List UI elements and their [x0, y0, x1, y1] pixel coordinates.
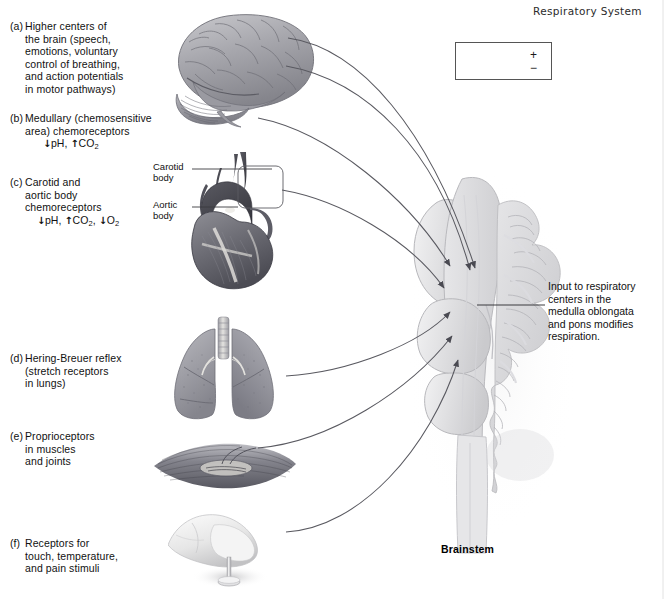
input-tag-b: (b)	[10, 112, 25, 125]
figure-title: Respiratory System	[533, 5, 642, 17]
co2-label-b: CO	[78, 137, 94, 149]
input-d-line2: (stretch receptors	[25, 365, 109, 377]
output-line3: medulla oblongata	[548, 305, 634, 317]
input-a-line2: the brain (speech,	[25, 33, 111, 45]
input-e-line3: and joints	[25, 455, 71, 467]
output-line1: Input to respiratory	[548, 280, 636, 292]
input-label-e: (e) Proprioceptors in muscles and joints	[10, 430, 160, 468]
carotid-body-callout: Carotid body	[153, 161, 184, 184]
input-a-line6: in motor pathways)	[25, 83, 116, 95]
aortic-body-callout: Aortic body	[153, 199, 177, 222]
chem-comma-c: ,	[93, 214, 96, 226]
ph-down-arrow-c: ↓	[37, 215, 45, 226]
input-d-line1: Hering-Breuer reflex	[25, 352, 122, 364]
output-line5: respiration.	[548, 330, 600, 342]
hand-pin-illustration	[168, 505, 308, 595]
input-a-line5: and action potentials	[25, 70, 123, 82]
lungs-illustration	[158, 315, 290, 425]
legend-minus-symbol: −	[530, 61, 537, 75]
input-d-line3: in lungs)	[25, 377, 66, 389]
o2-subscript-c: 2	[115, 219, 119, 228]
input-c-line3: chemoreceptors	[25, 201, 102, 213]
input-label-c: (c) Carotid and aortic body chemorecepto…	[10, 176, 160, 230]
input-label-b: (b) Medullary (chemosensitive area) chem…	[10, 112, 175, 154]
input-label-a: (a) Higher centers of the brain (speech,…	[10, 20, 160, 96]
output-line4: and pons modifies	[548, 318, 633, 330]
input-label-d: (d) Hering-Breuer reflex (stretch recept…	[10, 352, 160, 390]
o2-label-c: O	[107, 214, 115, 226]
carotid-body-line2: body	[153, 172, 174, 183]
input-a-line4: control of breathing,	[25, 58, 120, 70]
brainstem-illustration	[400, 155, 590, 555]
input-tag-e: (e)	[10, 430, 25, 443]
input-a-line3: emotions, voluntary	[25, 45, 118, 57]
heart-illustration	[178, 152, 303, 290]
aortic-body-line2: body	[153, 210, 174, 221]
carotid-body-line1: Carotid	[153, 161, 184, 172]
input-b-line1: Medullary (chemosensitive	[25, 112, 152, 124]
output-line2: centers in the	[548, 293, 611, 305]
input-label-f: (f) Receptors for touch, temperature, an…	[10, 537, 160, 575]
input-f-line3: and pain stimuli	[25, 562, 100, 574]
figure-canvas: Respiratory System + − (a) Higher center…	[0, 0, 669, 599]
input-c-line2: aortic body	[25, 189, 77, 201]
co2-label-c: CO	[72, 214, 88, 226]
brain-illustration	[165, 8, 330, 128]
ph-label-c: pH,	[45, 214, 62, 226]
input-tag-c: (c)	[10, 176, 25, 189]
input-e-line1: Proprioceptors	[25, 430, 95, 442]
input-f-line2: touch, temperature,	[25, 550, 118, 562]
input-f-line1: Receptors for	[25, 537, 89, 549]
brainstem-label: Brainstem	[441, 543, 494, 555]
input-c-line1: Carotid and	[25, 176, 80, 188]
input-tag-f: (f)	[10, 537, 25, 550]
ph-down-arrow-b: ↓	[43, 138, 51, 149]
input-tag-a: (a)	[10, 20, 25, 33]
input-a-line1: Higher centers of	[25, 20, 107, 32]
aortic-body-line1: Aortic	[153, 199, 177, 210]
co2-subscript-b: 2	[94, 142, 98, 151]
input-e-line2: in muscles	[25, 443, 76, 455]
arrow-legend	[455, 42, 552, 80]
ph-label-b: pH,	[51, 137, 68, 149]
legend-plus-symbol: +	[530, 48, 537, 62]
o2-down-arrow-c: ↓	[99, 215, 107, 226]
input-tag-d: (d)	[10, 352, 25, 365]
muscle-spindle-illustration	[152, 438, 298, 494]
input-b-line2: area) chemoreceptors	[25, 125, 130, 137]
output-callout: Input to respiratory centers in the medu…	[548, 280, 668, 343]
